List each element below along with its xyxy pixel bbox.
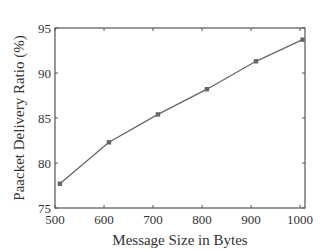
plot-area xyxy=(55,28,305,208)
y-tick-label: 75 xyxy=(38,201,51,216)
axis-ticks xyxy=(55,28,305,208)
x-tick-label: 800 xyxy=(192,212,212,227)
y-tick-label: 90 xyxy=(38,66,51,81)
x-tick-label: 900 xyxy=(241,212,261,227)
axis-tick-labels: 50060070080090010007580859095 xyxy=(38,21,313,227)
data-point-marker xyxy=(300,38,304,42)
x-axis-label: Message Size in Bytes xyxy=(112,232,248,248)
y-tick-label: 80 xyxy=(38,156,51,171)
y-tick-label: 85 xyxy=(38,111,51,126)
data-series xyxy=(58,38,305,186)
data-point-marker xyxy=(58,182,62,186)
data-point-marker xyxy=(107,140,111,144)
data-point-marker xyxy=(156,112,160,116)
data-point-marker xyxy=(205,87,209,91)
x-tick-label: 1000 xyxy=(287,212,313,227)
data-point-marker xyxy=(254,59,258,63)
series-line xyxy=(60,40,303,184)
plot-border xyxy=(55,28,305,208)
y-axis-label: Paacket Delivery Ratio (%) xyxy=(11,35,28,200)
x-tick-label: 600 xyxy=(94,212,114,227)
x-tick-label: 700 xyxy=(143,212,163,227)
y-tick-label: 95 xyxy=(38,21,51,36)
line-chart: 50060070080090010007580859095 Message Si… xyxy=(0,0,328,250)
